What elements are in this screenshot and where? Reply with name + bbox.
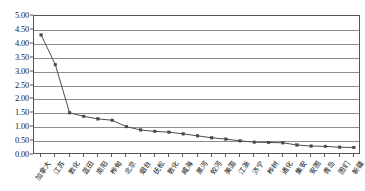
data-point: [267, 141, 270, 144]
data-point: [225, 138, 228, 141]
x-axis-tick-label: 通化: [278, 159, 294, 176]
data-point: [40, 34, 43, 37]
x-axis-tick-mark: [97, 154, 98, 157]
x-axis-tick-label: 图们: [335, 159, 351, 176]
x-axis-tick-mark: [225, 154, 226, 157]
x-axis-tick-mark: [268, 154, 269, 157]
data-point: [182, 133, 185, 136]
data-point: [68, 111, 71, 114]
x-axis-tick-label: 江苏: [50, 159, 66, 176]
x-axis-tick-mark: [182, 154, 183, 157]
x-axis-tick-mark: [239, 154, 240, 157]
data-point: [253, 141, 256, 144]
x-axis: 加拿大江苏敦化蓝田南阳桦甸北京烟台抚松敦化威海黑河蛟河美国江浙济宁桦树通化集安安…: [33, 154, 360, 191]
x-axis-tick-label: 集安: [292, 159, 308, 176]
data-point: [210, 136, 213, 139]
data-point: [82, 115, 85, 118]
x-axis-tick-mark: [253, 154, 254, 157]
x-axis-tick-mark: [339, 154, 340, 157]
y-axis-tick-label: 0.50: [15, 135, 29, 145]
x-axis-tick-label: 江浙: [235, 159, 251, 176]
x-axis-tick-label: 威海: [178, 159, 194, 176]
x-axis-tick-mark: [111, 154, 112, 157]
data-point: [310, 145, 313, 148]
data-point: [154, 130, 157, 133]
x-axis-tick-mark: [83, 154, 84, 157]
x-axis-tick-label: 烟台: [136, 159, 152, 176]
x-axis-tick-label: 敦化: [164, 159, 180, 176]
x-axis-tick-mark: [125, 154, 126, 157]
x-axis-tick-label: 蛟河: [207, 159, 223, 176]
x-axis-tick-label: 蓝田: [79, 159, 95, 176]
x-axis-tick-mark: [197, 154, 198, 157]
data-point: [338, 146, 341, 149]
y-axis: 0.000.501.001.502.002.503.003.504.004.50…: [0, 15, 33, 154]
series-line: [41, 35, 354, 148]
data-point: [239, 140, 242, 143]
y-axis-tick-label: 0.00: [15, 149, 29, 159]
x-axis-tick-mark: [140, 154, 141, 157]
data-point: [54, 63, 57, 66]
y-axis-tick-label: 2.50: [15, 80, 29, 90]
data-series: [34, 16, 361, 155]
x-axis-tick-mark: [282, 154, 283, 157]
data-point: [97, 118, 100, 121]
x-axis-tick-mark: [168, 154, 169, 157]
y-axis-tick-label: 4.50: [15, 24, 29, 34]
data-point: [125, 125, 128, 128]
data-point: [139, 129, 142, 132]
y-axis-tick-label: 4.00: [15, 38, 29, 48]
series-markers: [40, 34, 355, 149]
data-point: [168, 131, 171, 134]
x-axis-tick-label: 美国: [221, 159, 237, 176]
data-point: [111, 119, 114, 122]
x-axis-tick-label: 安图: [306, 159, 322, 176]
x-axis-tick-label: 桦甸: [107, 159, 123, 176]
x-axis-tick-mark: [69, 154, 70, 157]
plot-area: [33, 15, 360, 154]
x-axis-tick-label: 北京: [121, 159, 137, 176]
y-axis-tick-label: 5.00: [15, 10, 29, 20]
y-axis-tick-label: 2.00: [15, 93, 29, 103]
data-point: [324, 145, 327, 148]
data-point: [296, 144, 299, 147]
data-point: [196, 135, 199, 138]
data-point: [282, 141, 285, 144]
x-axis-tick-mark: [154, 154, 155, 157]
x-axis-tick-mark: [40, 154, 41, 157]
x-axis-tick-label: 敦化: [65, 159, 81, 176]
x-axis-tick-mark: [211, 154, 212, 157]
x-axis-tick-mark: [353, 154, 354, 157]
x-axis-tick-label: 抚松: [150, 159, 166, 176]
data-point: [353, 146, 356, 149]
x-axis-tick-label: 南阳: [93, 159, 109, 176]
y-axis-tick-label: 3.50: [15, 52, 29, 62]
x-axis-tick-label: 黑河: [192, 159, 208, 176]
x-axis-tick-mark: [310, 154, 311, 157]
x-axis-tick-mark: [296, 154, 297, 157]
y-axis-tick-label: 3.00: [15, 66, 29, 76]
x-axis-tick-mark: [324, 154, 325, 157]
y-axis-tick-label: 1.00: [15, 121, 29, 131]
x-axis-tick-label: 桦树: [264, 159, 280, 176]
y-axis-tick-label: 1.50: [15, 107, 29, 117]
x-axis-tick-label: 济宁: [249, 159, 265, 176]
x-axis-tick-label: 青岛: [320, 159, 336, 176]
x-axis-tick-label: 新疆: [349, 159, 365, 176]
x-axis-tick-mark: [54, 154, 55, 157]
